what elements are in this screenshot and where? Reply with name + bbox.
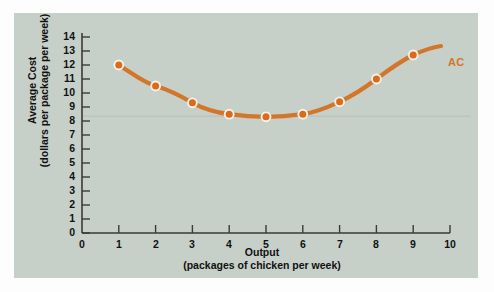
x-tick-label-10: 10	[440, 238, 460, 250]
y-tick-label-9: 9	[53, 100, 75, 112]
ac-series-label: AC	[448, 56, 465, 68]
y-axis-title-line1: Average Cost	[26, 0, 38, 190]
x-axis-ticks	[119, 225, 450, 233]
x-tick-label-6: 6	[295, 238, 311, 250]
y-axis-title: Average Cost (dollars per package per we…	[26, 0, 51, 190]
x-tick-label-7: 7	[332, 238, 348, 250]
chart-figure: AC Average Cost (dollars per package per…	[0, 0, 494, 292]
y-tick-label-13: 13	[53, 44, 75, 56]
x-tick-label-5: 5	[258, 238, 274, 250]
y-tick-label-1: 1	[53, 212, 75, 224]
y-tick-label-10: 10	[53, 86, 75, 98]
y-tick-label-3: 3	[53, 184, 75, 196]
y-axis-title-line2: (dollars per package per week)	[38, 0, 50, 190]
x-axis-title-line2: (packages of chicken per week)	[82, 259, 442, 272]
x-tick-label-0: 0	[74, 238, 90, 250]
x-tick-label-8: 8	[368, 238, 384, 250]
y-tick-label-2: 2	[53, 198, 75, 210]
y-tick-label-6: 6	[53, 142, 75, 154]
y-tick-label-5: 5	[53, 156, 75, 168]
ac-curve	[119, 46, 441, 117]
y-tick-label-0: 0	[53, 226, 75, 238]
x-tick-label-3: 3	[184, 238, 200, 250]
y-axis-ticks	[82, 37, 90, 233]
ac-data-points	[113, 50, 418, 123]
x-tick-label-2: 2	[148, 238, 164, 250]
x-tick-label-9: 9	[405, 238, 421, 250]
x-tick-label-1: 1	[111, 238, 127, 250]
y-tick-label-12: 12	[53, 58, 75, 70]
y-tick-label-11: 11	[53, 72, 75, 84]
y-tick-label-14: 14	[53, 30, 75, 42]
y-tick-label-4: 4	[53, 170, 75, 182]
y-tick-label-7: 7	[53, 128, 75, 140]
y-tick-label-8: 8	[53, 114, 75, 126]
x-tick-label-4: 4	[221, 238, 237, 250]
